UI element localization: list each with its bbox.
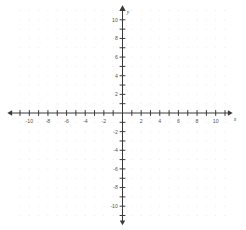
grid-dot: [215, 75, 216, 76]
grid-dot: [206, 47, 207, 48]
grid-dot: [178, 178, 179, 179]
grid-dot: [178, 94, 179, 95]
grid-dot: [85, 29, 86, 30]
grid-dot: [66, 131, 67, 132]
grid-dot: [85, 215, 86, 216]
grid-dot: [187, 85, 188, 86]
grid-dot: [197, 29, 198, 30]
grid-dot: [38, 178, 39, 179]
grid-dot: [187, 38, 188, 39]
grid-dot: [141, 29, 142, 30]
grid-dot: [75, 103, 76, 104]
grid-dot: [141, 215, 142, 216]
grid-dot: [225, 178, 226, 179]
grid-dot: [159, 206, 160, 207]
grid-dot: [159, 57, 160, 58]
grid-dot: [206, 168, 207, 169]
grid-dot: [159, 29, 160, 30]
grid-dot: [66, 215, 67, 216]
grid-dot: [19, 178, 20, 179]
grid-dot: [141, 94, 142, 95]
grid-dot: [225, 168, 226, 169]
grid-dot: [206, 85, 207, 86]
grid-dot: [159, 94, 160, 95]
grid-dot: [85, 131, 86, 132]
grid-dot: [169, 196, 170, 197]
grid-dot: [215, 178, 216, 179]
grid-dot: [131, 150, 132, 151]
grid-dot: [94, 94, 95, 95]
grid-dot: [187, 168, 188, 169]
grid-dot: [75, 159, 76, 160]
grid-dot: [131, 29, 132, 30]
grid-dot: [103, 206, 104, 207]
grid-dot: [113, 196, 114, 197]
grid-dot: [113, 66, 114, 67]
grid-dot: [169, 140, 170, 141]
grid-dot: [57, 103, 58, 104]
grid-dot: [187, 131, 188, 132]
grid-dot: [57, 94, 58, 95]
grid-dot: [225, 19, 226, 20]
y-axis-tick-label: 8: [115, 35, 118, 41]
grid-dot: [103, 103, 104, 104]
grid-dot: [66, 159, 67, 160]
grid-dot: [94, 85, 95, 86]
grid-dot: [225, 38, 226, 39]
grid-dot: [29, 103, 30, 104]
grid-dot: [141, 66, 142, 67]
grid-dot: [19, 19, 20, 20]
grid-dot: [94, 57, 95, 58]
grid-dot: [150, 140, 151, 141]
y-axis-tick-label: 6: [115, 54, 118, 60]
grid-dot: [47, 94, 48, 95]
grid-dot: [178, 206, 179, 207]
grid-dot: [57, 215, 58, 216]
grid-dot: [141, 196, 142, 197]
grid-dot: [75, 10, 76, 11]
grid-dot: [19, 131, 20, 132]
grid-dot: [178, 159, 179, 160]
grid-dot: [75, 94, 76, 95]
grid-dot: [57, 196, 58, 197]
grid-dot: [159, 215, 160, 216]
grid-dot: [141, 75, 142, 76]
grid-dot: [178, 150, 179, 151]
grid-dot: [85, 10, 86, 11]
grid-dot: [150, 19, 151, 20]
grid-dot: [103, 94, 104, 95]
grid-dot: [169, 206, 170, 207]
x-axis-tick-label: -2: [102, 118, 107, 124]
grid-dot: [85, 57, 86, 58]
grid-dot: [169, 75, 170, 76]
grid-dot: [103, 38, 104, 39]
grid-dot: [19, 215, 20, 216]
grid-dot: [75, 47, 76, 48]
grid-dot: [29, 159, 30, 160]
grid-dot: [75, 122, 76, 123]
grid-dot: [150, 122, 151, 123]
grid-dot: [187, 215, 188, 216]
grid-dot: [150, 38, 151, 39]
grid-dot: [206, 140, 207, 141]
grid-dot: [178, 10, 179, 11]
grid-dot: [150, 168, 151, 169]
grid-dot: [19, 103, 20, 104]
grid-dot: [103, 168, 104, 169]
grid-dot: [19, 85, 20, 86]
grid-dot: [169, 168, 170, 169]
grid-dot: [150, 131, 151, 132]
grid-dot: [225, 103, 226, 104]
grid-dot: [159, 131, 160, 132]
grid-dot: [131, 131, 132, 132]
grid-dot: [85, 206, 86, 207]
grid-dot: [169, 66, 170, 67]
grid-dot: [38, 85, 39, 86]
grid-dot: [103, 19, 104, 20]
grid-dot: [47, 140, 48, 141]
grid-dot: [215, 196, 216, 197]
grid-dot: [103, 47, 104, 48]
grid-dot: [131, 122, 132, 123]
x-axis-left-arrowhead: [7, 110, 12, 115]
grid-dot: [57, 66, 58, 67]
